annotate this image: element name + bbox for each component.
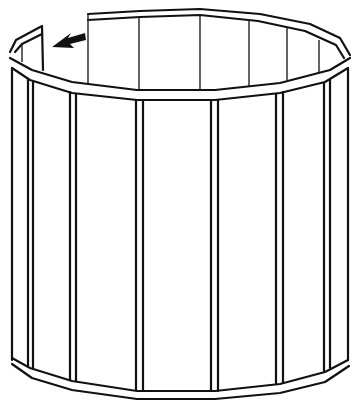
back-rail [88, 9, 350, 58]
left-open-end [10, 26, 43, 70]
front-posts [12, 68, 348, 391]
direction-arrow [52, 33, 86, 48]
top-front-rail [10, 58, 350, 100]
bottom-rail [12, 358, 349, 399]
enclosure-drawing [0, 0, 357, 409]
back-posts [88, 14, 319, 90]
